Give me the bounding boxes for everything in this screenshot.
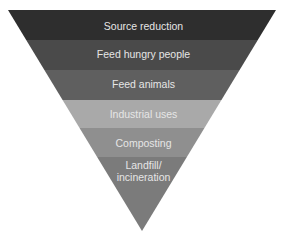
level-label-industrial-uses: Industrial uses [0,108,287,120]
level-label-landfill-incineration: Landfill/ incineration [0,159,287,183]
level-label-source-reduction: Source reduction [0,20,287,32]
level-label-feed-animals: Feed animals [0,78,287,90]
level-label-composting: Composting [0,137,287,149]
level-label-feed-hungry-people: Feed hungry people [0,48,287,60]
